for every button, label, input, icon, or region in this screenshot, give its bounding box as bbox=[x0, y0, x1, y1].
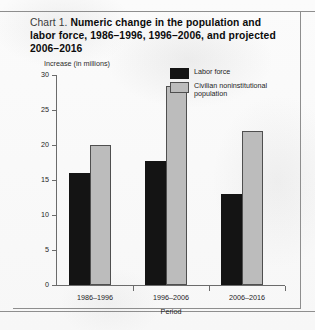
legend-label: Labor force bbox=[194, 68, 230, 76]
chart-legend: Labor forceCivilian noninstitutional pop… bbox=[170, 68, 286, 102]
y-axis-label: Increase (in millions) bbox=[44, 59, 110, 68]
chart-title: Chart 1. Numeric change in the populatio… bbox=[30, 16, 282, 56]
bar-pair bbox=[145, 75, 187, 285]
bar-pair bbox=[69, 75, 111, 285]
x-tick-label: 2006–2016 bbox=[209, 293, 285, 302]
legend-swatch-icon bbox=[170, 68, 189, 79]
y-tick-label: 15 bbox=[41, 175, 49, 184]
plot-area: 051015202530 Period 1986–19961996–200620… bbox=[57, 75, 285, 285]
y-tick-label: 0 bbox=[45, 280, 49, 289]
x-tick-label: 1996–2006 bbox=[133, 293, 209, 302]
chart-title-prefix: Chart 1. bbox=[30, 17, 67, 28]
bar-labor-force[interactable] bbox=[221, 194, 242, 285]
x-tick bbox=[209, 286, 210, 291]
bar-labor-force[interactable] bbox=[145, 161, 166, 285]
bar-group bbox=[57, 75, 133, 285]
x-tick bbox=[133, 286, 134, 291]
legend-item[interactable]: Civilian noninstitutional population bbox=[170, 82, 286, 99]
bar-group bbox=[133, 75, 209, 285]
x-tick bbox=[285, 286, 286, 291]
x-tick-label: 1986–1996 bbox=[57, 293, 133, 302]
bar-civilian-population[interactable] bbox=[90, 145, 111, 285]
bar-group bbox=[209, 75, 285, 285]
x-axis-line bbox=[56, 285, 285, 286]
legend-item[interactable]: Labor force bbox=[170, 68, 286, 79]
y-tick-label: 30 bbox=[41, 70, 49, 79]
y-tick-label: 10 bbox=[41, 210, 49, 219]
bar-civilian-population[interactable] bbox=[166, 86, 187, 285]
x-axis-label: Period bbox=[57, 307, 285, 316]
legend-label: Civilian noninstitutional population bbox=[194, 82, 286, 99]
y-tick: 0 bbox=[52, 285, 57, 286]
bar-pair bbox=[221, 75, 263, 285]
legend-swatch-icon bbox=[170, 82, 189, 93]
y-tick-label: 25 bbox=[41, 105, 49, 114]
y-tick-label: 20 bbox=[41, 140, 49, 149]
bar-labor-force[interactable] bbox=[69, 173, 90, 285]
chart-title-main: Numeric change in the population and lab… bbox=[30, 17, 276, 54]
bar-civilian-population[interactable] bbox=[242, 131, 263, 285]
y-tick-label: 5 bbox=[45, 245, 49, 254]
